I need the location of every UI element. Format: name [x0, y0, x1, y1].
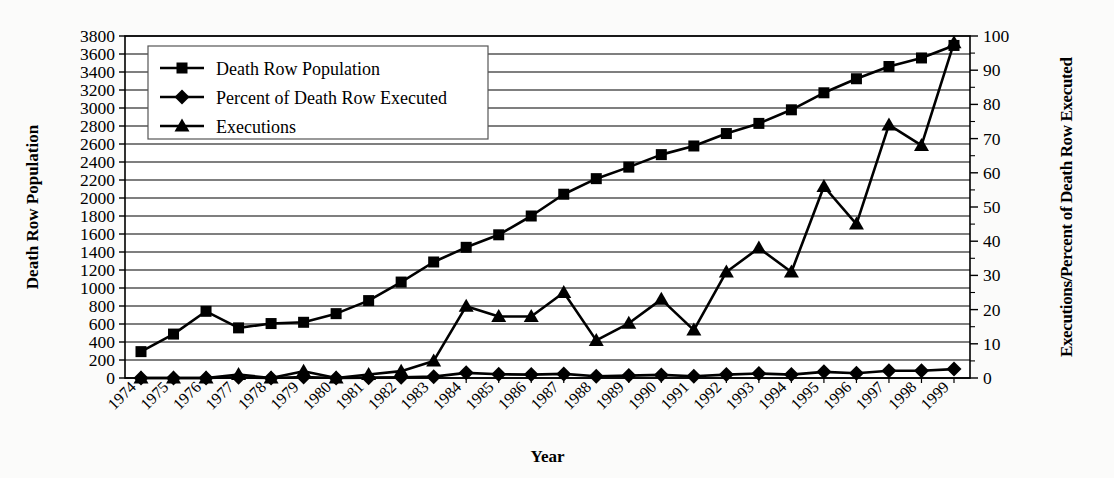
- x-axis-title: Year: [531, 447, 565, 466]
- legend-marker-square: [177, 63, 188, 74]
- right-axis-tick-label: 60: [983, 163, 1001, 183]
- series-marker: [623, 162, 634, 173]
- left-axis-tick-label: 2400: [80, 152, 115, 172]
- x-axis-tick-label: 1990: [625, 378, 660, 413]
- y2-axis-title: Executions/Percent of Death Row Executed: [1057, 56, 1076, 357]
- left-axis-tick-label: 2200: [80, 170, 115, 190]
- left-axis-tick-label: 2600: [80, 134, 115, 154]
- series-marker: [428, 256, 439, 267]
- x-axis-tick-label: 1991: [657, 378, 692, 413]
- series-marker: [721, 128, 732, 139]
- series-marker: [298, 317, 309, 328]
- chart-figure: 0200400600800100012001400160018002000220…: [0, 0, 1114, 478]
- series-marker: [331, 308, 342, 319]
- series-marker: [688, 140, 699, 151]
- series-marker: [526, 211, 537, 222]
- x-axis-tick-label: 1986: [495, 378, 530, 413]
- left-axis-tick-label: 400: [89, 332, 116, 352]
- x-axis-tick-label: 1988: [560, 378, 595, 413]
- right-axis-tick-label: 90: [983, 60, 1001, 80]
- x-axis-tick-label: 1998: [885, 378, 920, 413]
- series-marker: [266, 318, 277, 329]
- left-axis-tick-label: 600: [89, 314, 116, 334]
- left-axis-tick-label: 200: [89, 350, 116, 370]
- left-axis-tick-label: 2800: [80, 116, 115, 136]
- series-marker: [883, 61, 894, 72]
- right-axis-tick-label: 0: [983, 368, 992, 388]
- series-marker: [591, 173, 602, 184]
- x-axis-tick-label: 1993: [722, 378, 757, 413]
- series-marker: [786, 104, 797, 115]
- left-axis-tick-label: 800: [89, 296, 116, 316]
- x-axis-tick-label: 1995: [787, 378, 822, 413]
- series-marker: [201, 306, 212, 317]
- x-axis-tick-label: 1989: [592, 378, 627, 413]
- legend-label: Percent of Death Row Executed: [216, 88, 447, 108]
- left-axis-tick-label: 1800: [80, 206, 115, 226]
- left-axis-tick-label: 3400: [80, 62, 115, 82]
- right-axis-tick-label: 20: [983, 300, 1001, 320]
- x-axis-tick-label: 1997: [852, 378, 887, 413]
- left-axis-tick-label: 3000: [80, 98, 115, 118]
- series-marker: [396, 277, 407, 288]
- right-axis-tick-label: 50: [983, 197, 1001, 217]
- x-axis-tick-label: 1999: [917, 378, 952, 413]
- legend-label: Death Row Population: [216, 59, 380, 79]
- left-axis-tick-label: 1200: [80, 260, 115, 280]
- series-marker: [168, 329, 179, 340]
- x-axis-tick-label: 1987: [527, 378, 562, 413]
- x-axis-tick-label: 1984: [430, 378, 465, 413]
- series-marker: [656, 149, 667, 160]
- right-axis-tick-label: 80: [983, 94, 1001, 114]
- series-marker: [851, 73, 862, 84]
- x-axis-tick-label: 1992: [690, 378, 725, 413]
- left-axis-tick-label: 1000: [80, 278, 115, 298]
- left-axis-tick-label: 3800: [80, 26, 115, 46]
- series-marker: [493, 229, 504, 240]
- series-marker: [916, 52, 927, 63]
- left-axis-tick-label: 3200: [80, 80, 115, 100]
- right-axis-tick-label: 100: [983, 26, 1010, 46]
- x-axis-tick-label: 1985: [462, 378, 497, 413]
- y-axis-title: Death Row Population: [23, 124, 42, 289]
- right-axis: [970, 36, 978, 378]
- series-marker: [363, 295, 374, 306]
- right-axis-tick-label: 40: [983, 231, 1001, 251]
- line-chart: 0200400600800100012001400160018002000220…: [0, 0, 1114, 478]
- left-axis-tick-label: 2000: [80, 188, 115, 208]
- series-marker: [136, 346, 147, 357]
- left-axis-tick-label: 1600: [80, 224, 115, 244]
- series-marker: [753, 118, 764, 129]
- x-axis-tick-label: 1996: [820, 378, 855, 413]
- series-marker: [233, 322, 244, 333]
- right-axis-tick-label: 30: [983, 265, 1001, 285]
- left-axis: [119, 36, 125, 378]
- right-axis-tick-label: 70: [983, 129, 1001, 149]
- series-marker: [558, 189, 569, 200]
- left-axis-tick-label: 1400: [80, 242, 115, 262]
- right-axis-tick-label: 10: [983, 334, 1001, 354]
- x-axis-tick-label: 1994: [755, 378, 790, 413]
- series-marker: [818, 87, 829, 98]
- legend-label: Executions: [216, 117, 296, 137]
- left-axis-tick-label: 0: [106, 368, 115, 388]
- series-marker: [461, 242, 472, 253]
- left-axis-tick-label: 3600: [80, 44, 115, 64]
